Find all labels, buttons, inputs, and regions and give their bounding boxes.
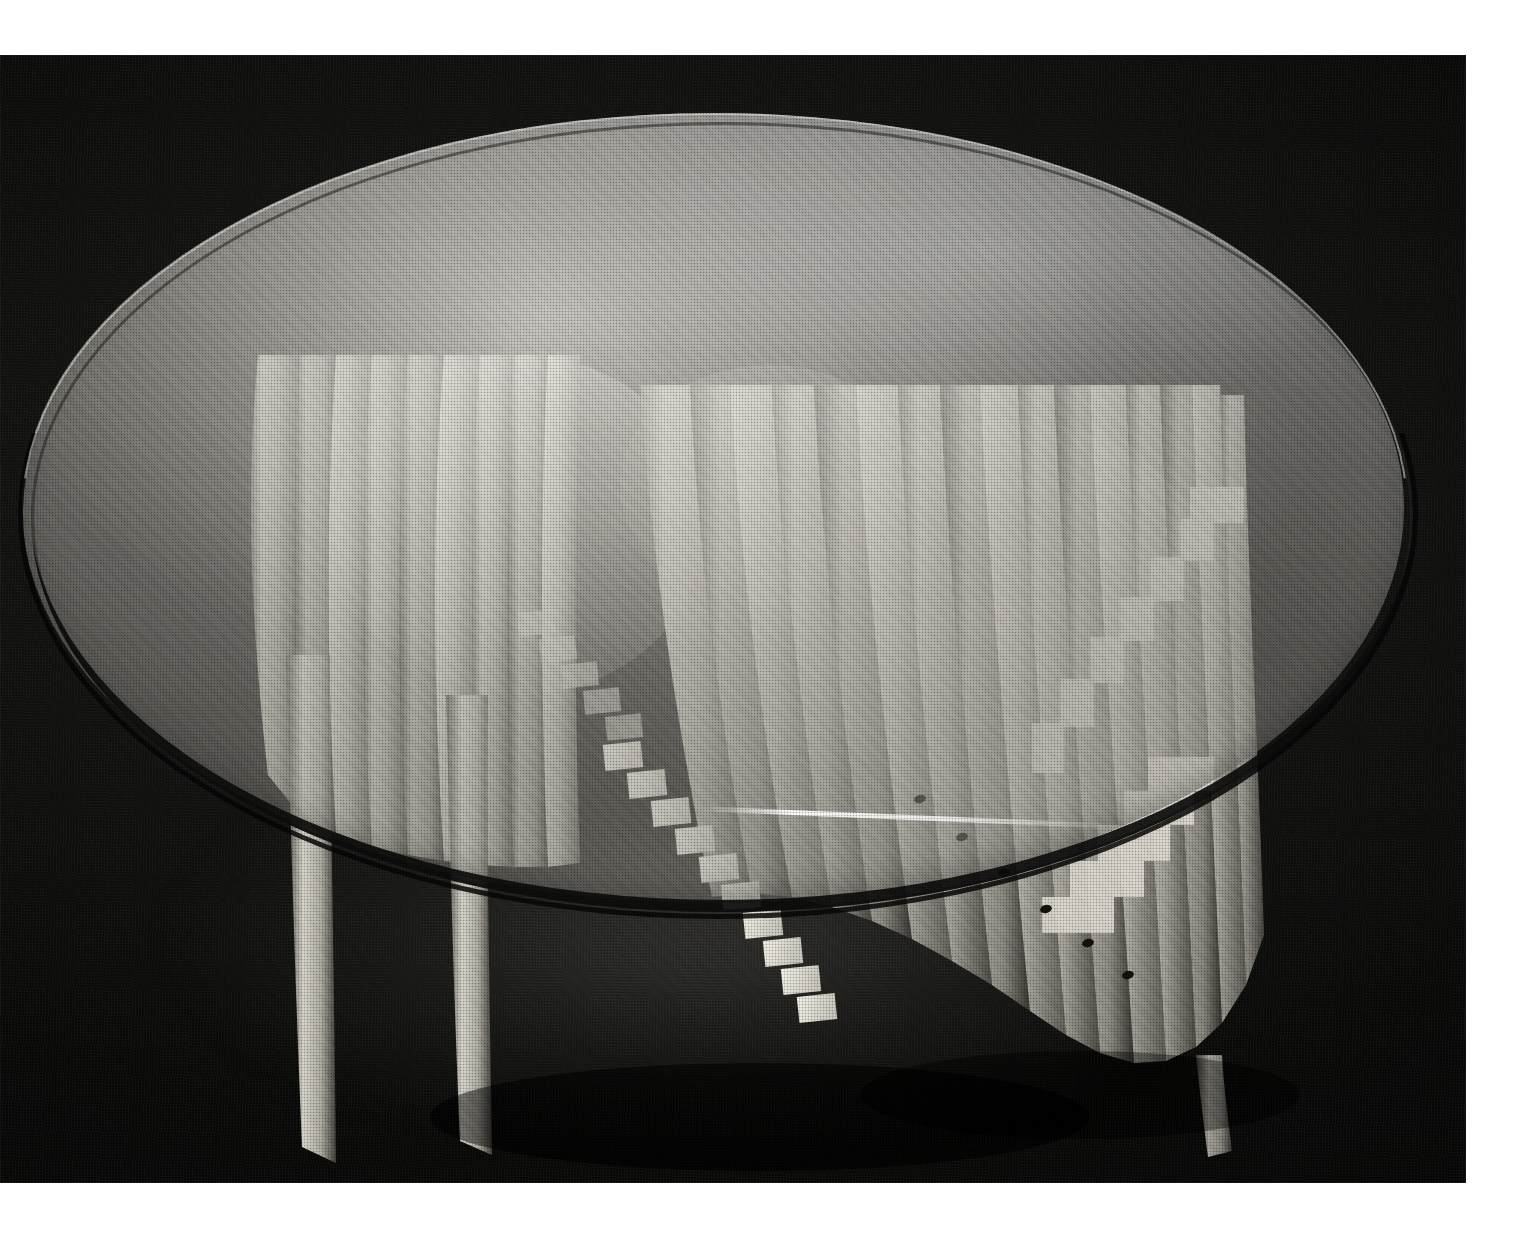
glass-surface <box>22 113 1404 903</box>
clipped-top-text <box>1018 0 1318 5</box>
page <box>0 0 1527 1245</box>
photograph-plate <box>0 55 1466 1183</box>
glass-tabletop <box>0 55 1466 1183</box>
